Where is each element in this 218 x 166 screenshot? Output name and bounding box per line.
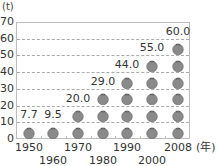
tomato-icon <box>121 74 133 87</box>
y-tick-label: 0 <box>0 133 14 144</box>
x-tick-label: 1960 <box>39 155 67 166</box>
x-tick-mark <box>165 136 166 139</box>
tomato-icon <box>121 124 133 137</box>
value-label: 29.0 <box>91 76 116 87</box>
x-tick-label: 2000 <box>138 155 166 166</box>
gridline <box>17 39 189 40</box>
x-tick-label: 1980 <box>89 155 117 166</box>
x-tick-mark <box>115 136 116 139</box>
x-tick-mark <box>41 136 42 139</box>
tomato-icon <box>121 90 133 103</box>
x-tick-mark <box>91 136 92 139</box>
y-tick-label: 40 <box>0 66 14 77</box>
tomato-icon <box>146 90 158 103</box>
tomato-icon <box>47 124 59 137</box>
y-axis-unit: (t) <box>2 1 14 12</box>
tomato-icon <box>97 90 109 103</box>
tomato-icon <box>97 124 109 137</box>
value-label: 9.5 <box>44 109 62 120</box>
tomato-icon <box>146 74 158 87</box>
tomato-icon <box>172 107 184 120</box>
tomato-icon <box>146 107 158 120</box>
tomato-icon <box>72 107 84 120</box>
value-label: 44.0 <box>115 59 140 70</box>
value-label: 55.0 <box>140 42 165 53</box>
value-label: 60.0 <box>166 26 191 37</box>
y-tick-label: 60 <box>0 33 14 44</box>
x-tick-label: 1970 <box>64 142 92 153</box>
gridline <box>17 72 189 73</box>
value-label: 7.7 <box>20 109 38 120</box>
tomato-icon <box>172 74 184 87</box>
y-tick-label: 10 <box>0 116 14 127</box>
value-label: 20.0 <box>66 93 91 104</box>
y-tick-label: 50 <box>0 49 14 60</box>
tomato-icon <box>172 124 184 137</box>
tomato-icon <box>72 124 84 137</box>
tomato-icon <box>172 90 184 103</box>
x-tick-label: 2008 <box>164 142 192 153</box>
tomato-icon <box>23 124 35 137</box>
tomato-icon <box>172 57 184 70</box>
x-tick-label: 1950 <box>15 142 43 153</box>
x-tick-mark <box>66 136 67 139</box>
y-tick-label: 30 <box>0 83 14 94</box>
y-tick-label: 70 <box>0 16 14 27</box>
y-tick-label: 20 <box>0 100 14 111</box>
tomato-icon <box>172 40 184 53</box>
tomato-icon <box>146 57 158 70</box>
x-tick-label: 1990 <box>113 142 141 153</box>
x-axis-unit: (年) <box>196 142 216 153</box>
tomato-icon <box>121 107 133 120</box>
gridline <box>17 55 189 56</box>
x-tick-mark <box>140 136 141 139</box>
tomato-icon <box>146 124 158 137</box>
tomato-icon <box>97 107 109 120</box>
